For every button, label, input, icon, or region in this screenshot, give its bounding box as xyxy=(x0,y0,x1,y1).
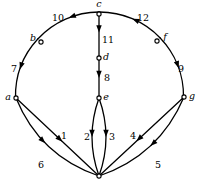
arrowhead-edge-8 xyxy=(96,71,101,78)
edge-label-11: 11 xyxy=(102,34,114,45)
node-d xyxy=(97,56,101,60)
graph-figure: abcdefg 123456789101112 xyxy=(0,0,199,188)
arrowhead-edge-2 xyxy=(103,130,108,137)
node-label-d: d xyxy=(103,51,109,62)
edge-2 xyxy=(99,98,106,176)
edge-label-4: 4 xyxy=(130,130,136,141)
arrowhead-edge-7 xyxy=(20,62,25,70)
edge-label-3: 3 xyxy=(109,131,115,142)
arrowhead-edge-11 xyxy=(96,25,101,32)
edge-label-1: 1 xyxy=(61,130,67,141)
edge-label-12: 12 xyxy=(137,12,149,23)
edges-layer xyxy=(16,12,185,176)
node-label-f: f xyxy=(162,31,168,42)
node-label-a: a xyxy=(5,91,11,102)
edge-7 xyxy=(16,39,38,98)
edge-label-2: 2 xyxy=(84,131,90,142)
node-b xyxy=(39,40,43,44)
node-a xyxy=(14,96,18,100)
node-c xyxy=(97,12,101,16)
edge-label-9: 9 xyxy=(178,63,184,74)
edge-3 xyxy=(92,98,99,176)
node-label-c: c xyxy=(96,0,102,9)
node-e xyxy=(97,96,101,100)
graph-canvas: abcdefg 123456789101112 xyxy=(0,0,199,188)
arrowhead-edge-10 xyxy=(69,13,77,18)
node-label-e: e xyxy=(103,91,109,102)
node-label-b: b xyxy=(30,32,36,43)
node-label-g: g xyxy=(189,90,195,101)
edge-10 xyxy=(38,12,99,39)
node-f xyxy=(155,39,159,43)
edge-label-6: 6 xyxy=(38,159,44,170)
node-g xyxy=(182,95,186,99)
edge-label-5: 5 xyxy=(155,159,161,170)
edge-label-8: 8 xyxy=(104,72,110,83)
edge-label-10: 10 xyxy=(52,12,64,23)
node-h xyxy=(97,174,101,178)
edge-label-7: 7 xyxy=(11,63,17,74)
arrowhead-edge-3 xyxy=(89,130,94,137)
